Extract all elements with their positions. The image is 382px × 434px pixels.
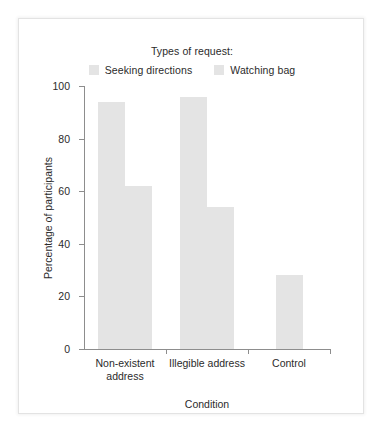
bar: [125, 186, 152, 349]
y-axis-tick-label: 80: [58, 133, 70, 145]
x-axis-category-label: Control: [239, 357, 339, 370]
figure-page: Types of request: Seeking directions Wat…: [0, 0, 382, 434]
legend-item-seeking-directions: Seeking directions: [89, 64, 193, 76]
x-axis-line: [84, 349, 330, 350]
y-axis-tick: 100: [79, 86, 84, 87]
y-axis-line: [84, 86, 85, 349]
bar: [180, 97, 207, 349]
y-axis-tick-label: 40: [58, 238, 70, 250]
bar: [276, 275, 303, 349]
legend-title: Types of request:: [19, 45, 365, 57]
y-axis-tick: 80: [79, 139, 84, 140]
legend-label: Seeking directions: [105, 64, 193, 76]
chart-legend: Types of request: Seeking directions Wat…: [19, 45, 365, 76]
legend-item-watching-bag: Watching bag: [214, 64, 295, 76]
y-axis-tick: 20: [79, 296, 84, 297]
x-axis-tick: [166, 349, 167, 354]
x-axis-tick: [248, 349, 249, 354]
bar: [207, 207, 234, 349]
y-axis-title: Percentage of participants: [41, 86, 55, 349]
plot-area: 020406080100 Non-existent addressIllegib…: [84, 86, 330, 349]
legend-entries: Seeking directions Watching bag: [19, 64, 365, 76]
y-axis-title-text: Percentage of participants: [42, 157, 54, 279]
y-axis-tick: 40: [79, 244, 84, 245]
bar: [98, 102, 125, 349]
y-axis-tick-label: 0: [64, 343, 70, 355]
y-axis-tick-label: 60: [58, 185, 70, 197]
y-axis-tick-label: 100: [52, 80, 70, 92]
legend-swatch-icon: [214, 65, 224, 75]
x-axis-title: Condition: [84, 398, 330, 410]
y-axis-tick-label: 20: [58, 290, 70, 302]
legend-swatch-icon: [89, 65, 99, 75]
y-axis-tick: 60: [79, 191, 84, 192]
x-axis-tick: [330, 349, 331, 354]
legend-label: Watching bag: [230, 64, 295, 76]
figure-frame: Types of request: Seeking directions Wat…: [18, 18, 364, 414]
y-axis-tick: 0: [79, 349, 84, 350]
